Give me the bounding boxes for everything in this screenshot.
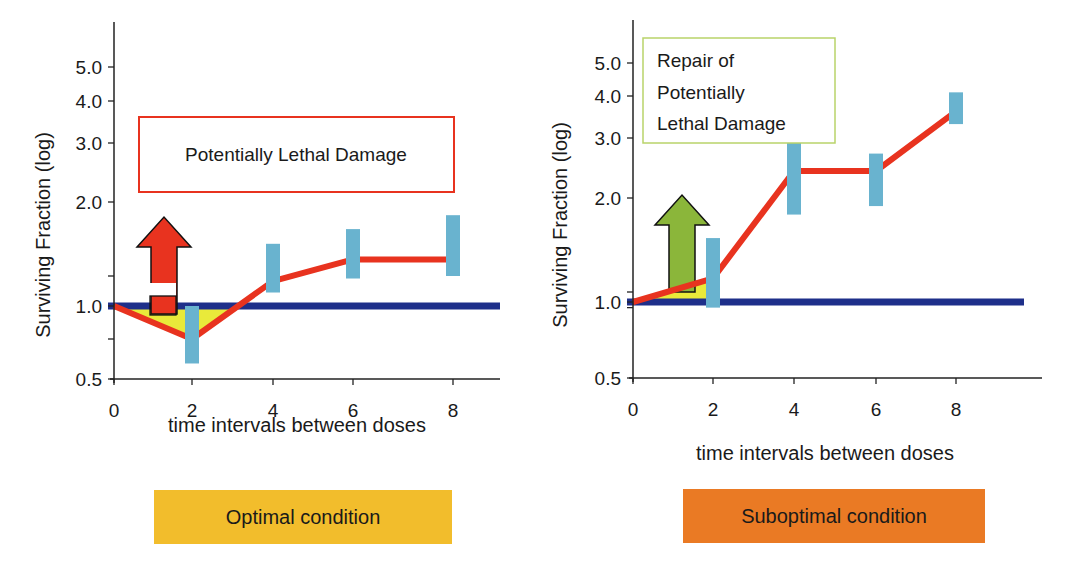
figure: 0.51.02.03.04.05.002468 time intervals b… xyxy=(0,0,1088,571)
error-bar xyxy=(446,215,460,276)
x-tick-label: 2 xyxy=(708,399,719,420)
x-axis-title: time intervals between doses xyxy=(696,442,954,464)
y-axis-title: Surviving Fraction (log) xyxy=(32,132,54,338)
error-bar xyxy=(706,238,720,308)
y-tick-label: 5.0 xyxy=(595,53,621,74)
y-tick-label: 4.0 xyxy=(76,91,102,112)
x-axis-title: time intervals between doses xyxy=(168,414,426,436)
chart-suboptimal: 0.51.02.03.04.05.002468 time intervals b… xyxy=(549,20,1042,543)
x-tick-label: 4 xyxy=(789,399,800,420)
error-bar xyxy=(949,92,963,124)
annotation-text: Potentially Lethal Damage xyxy=(185,144,407,165)
y-tick-label: 1.0 xyxy=(76,296,102,317)
y-tick-label: 2.0 xyxy=(595,188,621,209)
arrow-gap xyxy=(150,283,176,296)
x-tick-label: 8 xyxy=(951,399,962,420)
y-tick-label: 0.5 xyxy=(595,368,621,389)
y-tick-label: 3.0 xyxy=(595,128,621,149)
y-axis-title: Surviving Fraction (log) xyxy=(549,122,571,328)
error-bar xyxy=(185,306,199,363)
y-tick-label: 5.0 xyxy=(76,57,102,78)
error-bar xyxy=(787,138,801,215)
x-tick-label: 0 xyxy=(109,400,120,421)
annotation-line-3: Lethal Damage xyxy=(657,113,786,134)
annotation-line-1: Repair of xyxy=(657,50,735,71)
y-tick-label: 3.0 xyxy=(76,133,102,154)
up-arrow xyxy=(655,195,709,292)
condition-label: Optimal condition xyxy=(226,506,381,528)
error-bar xyxy=(869,154,883,206)
y-tick-label: 2.0 xyxy=(76,192,102,213)
annotation-line-2: Potentially xyxy=(657,82,745,103)
x-tick-label: 0 xyxy=(628,399,639,420)
condition-label: Suboptimal condition xyxy=(741,505,927,527)
error-bar xyxy=(346,229,360,278)
x-tick-label: 8 xyxy=(448,400,459,421)
up-arrow xyxy=(137,217,191,314)
y-tick-label: 4.0 xyxy=(595,86,621,107)
y-tick-label: 0.5 xyxy=(76,369,102,390)
error-bar xyxy=(266,244,280,293)
x-tick-label: 6 xyxy=(871,399,882,420)
y-tick-label: 1.0 xyxy=(595,292,621,313)
chart-optimal: 0.51.02.03.04.05.002468 time intervals b… xyxy=(32,22,500,544)
